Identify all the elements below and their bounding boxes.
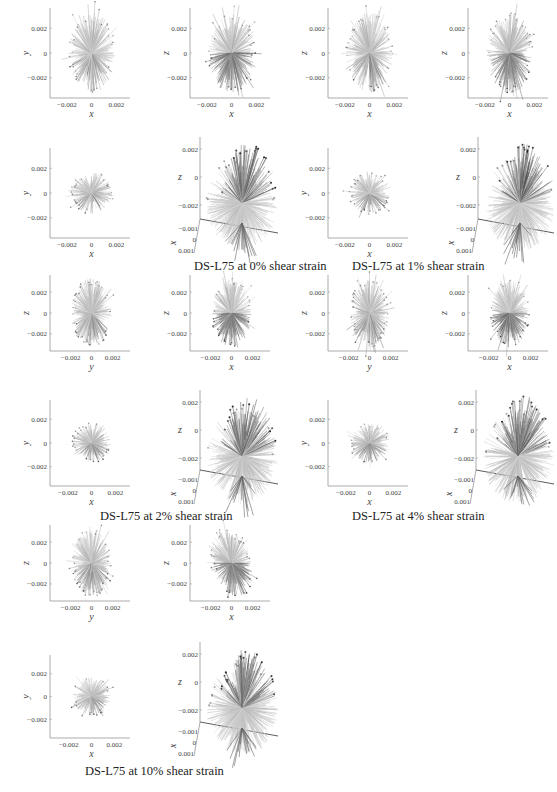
svg-text:0.002: 0.002 [31,165,47,173]
plot-y-vs-x-panel: −0.002−0.002000.0020.002xy [22,655,132,760]
svg-text:x: x [88,748,94,759]
svg-text:y: y [298,440,309,446]
plot-z-vs-y-panel: −0.002−0.002000.0020.002yz [22,525,132,623]
svg-text:0: 0 [193,487,197,495]
svg-text:0: 0 [193,236,197,244]
svg-text:0.002: 0.002 [449,289,465,297]
svg-text:0: 0 [184,560,188,568]
svg-text:−0.002: −0.002 [335,101,355,109]
svg-text:y: y [88,611,94,622]
svg-text:x: x [366,248,372,259]
plot-y-vs-x-panel: −0.002−0.002000.0020.002xy [300,148,410,260]
plot-3d-panel: 0.0020−0.002−0.00100.001zx [448,135,556,257]
svg-text:0: 0 [322,440,326,448]
svg-text:0.002: 0.002 [31,416,47,424]
svg-text:−0.002: −0.002 [178,455,198,463]
svg-text:0.002: 0.002 [309,25,325,33]
svg-text:x: x [366,496,372,507]
svg-text:z: z [20,561,31,566]
svg-text:0.002: 0.002 [182,146,198,154]
plot-z-vs-x-panel: −0.002−0.002000.0020.002xz [440,8,550,120]
svg-text:0: 0 [322,190,326,198]
svg-text:x: x [506,361,512,372]
svg-text:0: 0 [195,679,199,687]
svg-text:0.002: 0.002 [383,354,399,362]
svg-text:−0.001: −0.001 [454,476,474,484]
svg-text:−0.002: −0.002 [475,101,495,109]
svg-text:−0.002: −0.002 [167,74,187,82]
svg-text:x: x [443,491,454,497]
svg-text:−0.001: −0.001 [178,728,198,736]
svg-text:0.002: 0.002 [108,101,124,109]
svg-text:0.002: 0.002 [31,670,47,678]
svg-text:0: 0 [44,310,48,318]
svg-text:0.002: 0.002 [171,25,187,33]
svg-text:z: z [177,171,182,182]
svg-text:x: x [88,248,94,259]
svg-text:−0.002: −0.002 [57,241,77,249]
svg-text:−0.002: −0.002 [27,580,47,588]
svg-text:z: z [20,311,31,316]
svg-text:0: 0 [193,739,197,747]
svg-text:0.002: 0.002 [182,651,198,659]
svg-text:0.002: 0.002 [523,354,539,362]
svg-text:0: 0 [44,440,48,448]
plot-3d-panel: 0.0020−0.002−0.00100.001zx [170,135,280,257]
svg-text:−0.002: −0.002 [445,74,465,82]
svg-text:−0.002: −0.002 [61,354,81,362]
svg-text:z: z [453,424,458,435]
svg-text:0.002: 0.002 [458,399,474,407]
svg-text:0: 0 [322,50,326,58]
svg-text:−0.002: −0.002 [27,74,47,82]
condition-caption: DS-L75 at 2% shear strain [100,509,233,524]
svg-text:−0.002: −0.002 [305,74,325,82]
svg-text:z: z [438,311,449,316]
svg-text:−0.002: −0.002 [59,741,79,749]
svg-text:y: y [20,50,31,56]
svg-text:−0.001: −0.001 [178,476,198,484]
plot-y-vs-x-panel: −0.002−0.002000.0020.002xy [22,400,132,508]
condition-caption: DS-L75 at 10% shear strain [85,764,224,779]
svg-text:0.002: 0.002 [171,289,187,297]
svg-text:z: z [160,311,171,316]
svg-text:y: y [366,361,372,372]
svg-text:−0.002: −0.002 [27,716,47,724]
svg-text:0.001: 0.001 [178,498,194,506]
plot-z-vs-x-panel: −0.002−0.002000.0020.002xz [162,8,272,120]
svg-text:y: y [20,190,31,196]
svg-text:−0.002: −0.002 [305,214,325,222]
plot-z-vs-x-panel: −0.002−0.002000.0020.002xz [162,525,272,623]
svg-text:x: x [228,361,234,372]
svg-text:0.001: 0.001 [456,247,472,255]
svg-text:x: x [167,240,178,246]
svg-text:0.002: 0.002 [449,25,465,33]
plot-3d-panel: 0.0020−0.002−0.00100.001zx [170,640,280,760]
svg-text:x: x [167,491,178,497]
svg-text:0: 0 [322,310,326,318]
svg-text:0.002: 0.002 [182,399,198,407]
svg-text:z: z [177,424,182,435]
plot-y-vs-x-panel: −0.002−0.002000.0020.002xy [22,8,132,120]
svg-text:0.002: 0.002 [309,165,325,173]
svg-text:−0.002: −0.002 [167,330,187,338]
svg-text:0.002: 0.002 [248,101,264,109]
svg-text:−0.002: −0.002 [167,580,187,588]
plot-y-vs-x-panel: −0.002−0.002000.0020.002xy [300,400,410,508]
svg-text:−0.002: −0.002 [335,241,355,249]
condition-caption: DS-L75 at 4% shear strain [352,509,485,524]
plot-z-vs-y-panel: −0.002−0.002000.0020.002yz [22,275,132,373]
svg-text:0.002: 0.002 [385,489,401,497]
svg-text:0.002: 0.002 [171,539,187,547]
plot-z-vs-x-panel: −0.002−0.002000.0020.002xz [440,275,550,373]
svg-text:0.002: 0.002 [31,289,47,297]
plot-z-vs-x-panel: −0.002−0.002000.0020.002xz [162,275,272,373]
svg-text:z: z [177,676,182,687]
svg-text:y: y [88,361,94,372]
svg-text:−0.002: −0.002 [57,101,77,109]
svg-text:−0.001: −0.001 [456,225,476,233]
svg-text:x: x [445,240,456,246]
plot-3d-panel: 0.0020−0.002−0.00100.001zx [446,388,556,508]
svg-text:0.002: 0.002 [107,489,123,497]
svg-text:0.002: 0.002 [309,416,325,424]
svg-text:−0.002: −0.002 [201,604,221,612]
